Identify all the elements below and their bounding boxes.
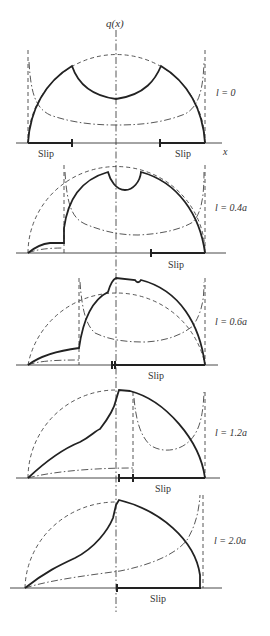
slip-bar-right [160,139,205,147]
panel-label: l = 0.4a [215,202,247,213]
reference-ellipse [25,502,116,588]
traction-curve [28,66,205,143]
slip-label-left: Slip [38,148,54,159]
slip-label: Slip [150,593,166,604]
traction-distribution-figure: q(x) x Slip Slip l = 0 Slip l = 0.4a [0,0,270,636]
traction-curve [28,172,205,253]
panel-l06a: Slip l = 0.6a [16,278,247,381]
correction-curve [25,495,200,588]
correction-curve-stick [28,468,133,478]
panel-l04a: Slip l = 0.4a [16,165,247,270]
slip-bar [112,361,205,369]
panel-label: l = 1.2a [215,427,247,438]
slip-bar [119,474,205,482]
correction-curve [134,392,204,450]
slip-label: Slip [155,483,171,494]
panel-label: l = 0 [216,87,236,98]
y-axis-label: q(x) [106,17,124,30]
x-axis-label: x [222,146,228,157]
traction-curve [25,500,200,588]
traction-curve [28,390,205,478]
reference-ellipse [28,390,116,478]
reference-ellipse [28,167,205,253]
slip-label: Slip [148,370,164,381]
panel-label: l = 0.6a [215,316,247,327]
slip-bar [117,584,201,592]
correction-curve [29,62,204,125]
correction-curve [65,172,204,235]
slip-label-right: Slip [175,148,191,159]
reference-ellipse [28,293,205,365]
panel-label: l = 2.0a [214,535,246,546]
panel-l12a: Slip l = 1.2a [16,390,247,494]
slip-label: Slip [168,259,184,270]
panel-l0: x Slip Slip l = 0 [16,50,236,159]
panel-l20a: Slip l = 2.0a [10,495,246,604]
slip-bar [151,249,205,257]
slip-bar-left [28,139,72,147]
traction-curve [28,278,205,365]
